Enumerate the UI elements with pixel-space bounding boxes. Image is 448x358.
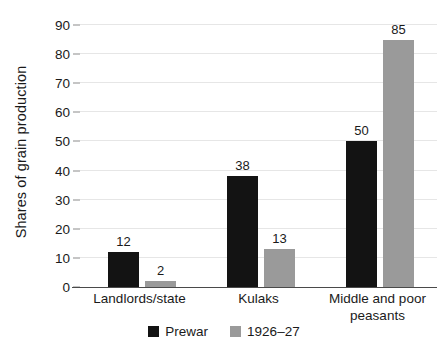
- y-tick-label: 70: [55, 76, 70, 91]
- x-axis-line: [72, 287, 437, 289]
- bar-value-label: 2: [157, 263, 164, 278]
- bar-prewar[interactable]: 12: [108, 252, 139, 287]
- bar-1926-27[interactable]: 13: [264, 249, 295, 287]
- bar-value-label: 85: [391, 22, 405, 37]
- bar-group: 3813: [199, 25, 318, 287]
- y-tick-label: 90: [55, 18, 70, 33]
- bar-prewar[interactable]: 50: [346, 141, 377, 287]
- y-tick-mark: [73, 170, 80, 171]
- y-tick-label: 10: [55, 250, 70, 265]
- y-tick-label: 20: [55, 221, 70, 236]
- y-tick-label: 50: [55, 134, 70, 149]
- bar-value-label: 13: [272, 231, 286, 246]
- bar-group: 5085: [318, 25, 437, 287]
- y-tick-mark: [73, 83, 80, 84]
- y-tick-label: 80: [55, 47, 70, 62]
- chart-legend: Prewar1926–27: [0, 324, 448, 339]
- y-tick-label: 0: [62, 280, 70, 295]
- y-tick-mark: [73, 141, 80, 142]
- x-axis-labels: Landlords/stateKulaksMiddle and poor pea…: [80, 290, 437, 324]
- bar-prewar[interactable]: 38: [227, 176, 258, 287]
- bar-chart: Shares of grain production 9080706050403…: [0, 0, 448, 358]
- bar-value-label: 12: [116, 234, 130, 249]
- y-axis-ticks: 9080706050403020100: [0, 25, 80, 287]
- legend-item[interactable]: Prewar: [148, 324, 208, 339]
- plot-area: 12238135085: [80, 25, 437, 287]
- bar-value-label: 38: [235, 158, 249, 173]
- y-tick-mark: [73, 112, 80, 113]
- legend-label: Prewar: [165, 324, 208, 339]
- y-tick-mark: [73, 25, 80, 26]
- y-tick-label: 60: [55, 105, 70, 120]
- y-tick-mark: [73, 199, 80, 200]
- legend-swatch-icon: [148, 326, 159, 337]
- y-tick-mark: [73, 54, 80, 55]
- legend-label: 1926–27: [247, 324, 300, 339]
- y-tick-label: 40: [55, 163, 70, 178]
- bar-1926-27[interactable]: 85: [383, 40, 414, 287]
- x-axis-label: Kulaks: [199, 290, 318, 324]
- y-tick-label: 30: [55, 192, 70, 207]
- bar-groups: 12238135085: [80, 25, 437, 287]
- y-tick-mark: [73, 228, 80, 229]
- x-axis-label: Middle and poor peasants: [318, 290, 437, 324]
- bar-value-label: 50: [354, 123, 368, 138]
- x-axis-label: Landlords/state: [80, 290, 199, 324]
- legend-swatch-icon: [230, 326, 241, 337]
- legend-item[interactable]: 1926–27: [230, 324, 300, 339]
- bar-group: 122: [80, 25, 199, 287]
- y-tick-mark: [73, 257, 80, 258]
